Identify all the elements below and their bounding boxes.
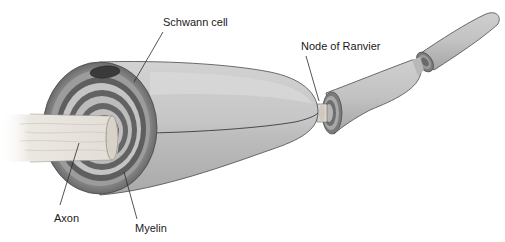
internode-segment-2 [322, 57, 424, 134]
internode-segment-3 [413, 13, 499, 75]
node-of-ranvier [317, 104, 327, 122]
myelin-label: Myelin [135, 222, 167, 234]
axon [0, 114, 119, 162]
axon-label: Axon [54, 212, 79, 224]
schwann-cell-label: Schwann cell [163, 16, 228, 28]
node-of-ranvier-label: Node of Ranvier [301, 40, 381, 52]
myelinated-axon-diagram: Schwann cell Node of Ranvier Axon Myelin [0, 0, 505, 242]
